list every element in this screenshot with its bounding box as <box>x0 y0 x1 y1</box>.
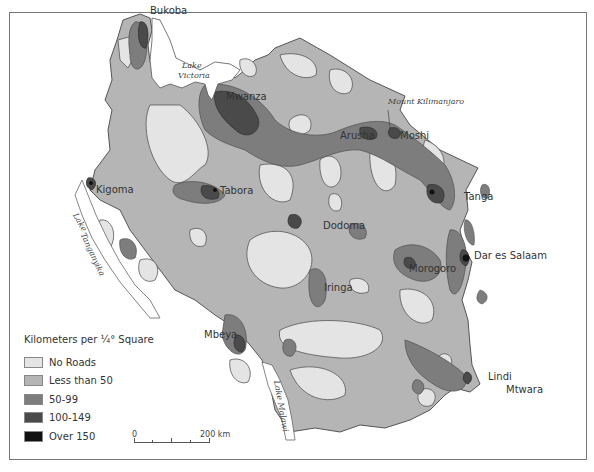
city-label-tanga: Tanga <box>464 192 493 202</box>
scale-tick <box>171 438 172 443</box>
city-label-mwanza: Mwanza <box>226 92 267 102</box>
scale-tick <box>152 440 153 443</box>
legend-item-no-roads: No Roads <box>24 353 154 372</box>
lake-victoria-label-line2: Victoria <box>178 72 210 80</box>
lake-victoria-label-line1: Lake <box>182 62 202 70</box>
mount-kilimanjaro-label: Mount Kilimanjaro <box>388 98 464 106</box>
city-label-bukoba: Bukoba <box>150 6 187 16</box>
scale-unit: km <box>218 430 230 439</box>
city-label-tabora: Tabora <box>220 186 253 196</box>
legend-swatch <box>24 394 43 405</box>
city-label-mbeya: Mbeya <box>204 330 237 340</box>
legend-title: Kilometers per ¼° Square <box>24 334 154 345</box>
scale-end-label: 200 km <box>200 430 230 439</box>
legend: Kilometers per ¼° Square No Roads Less t… <box>24 334 154 446</box>
scale-bar: 0 200 km <box>132 430 212 450</box>
legend-swatch <box>24 431 43 442</box>
legend-label: Over 150 <box>49 431 95 442</box>
legend-label: 100-149 <box>49 412 91 423</box>
city-label-kigoma: Kigoma <box>96 185 134 195</box>
scale-tick <box>190 440 191 443</box>
legend-label: Less than 50 <box>49 375 113 386</box>
legend-item-less-than-50: Less than 50 <box>24 372 154 391</box>
legend-label: 50-99 <box>49 394 78 405</box>
city-label-moshi: Moshi <box>400 131 429 141</box>
islands <box>464 184 489 304</box>
city-label-lindi: Lindi <box>488 372 512 382</box>
legend-swatch <box>24 375 43 386</box>
scale-tick <box>134 438 135 443</box>
city-label-mtwara: Mtwara <box>506 385 543 395</box>
city-label-iringa: Iringa <box>324 283 353 293</box>
legend-swatch <box>24 412 43 423</box>
legend-label: No Roads <box>49 357 96 368</box>
city-label-arusha: Arusha <box>340 131 375 141</box>
legend-swatch <box>24 357 43 368</box>
scale-tick <box>209 438 210 443</box>
city-label-morogoro: Morogoro <box>409 264 456 274</box>
city-label-dar-es-salaam: Dar es Salaam <box>474 251 547 261</box>
legend-item-50-99: 50-99 <box>24 390 154 409</box>
legend-item-100-149: 100-149 <box>24 409 154 428</box>
scale-end-value: 200 <box>200 430 215 439</box>
city-label-dodoma: Dodoma <box>323 221 365 231</box>
